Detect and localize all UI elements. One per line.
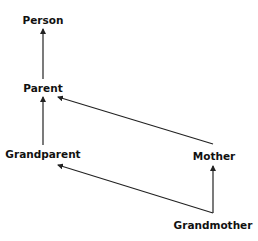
diagram-canvas: Person Parent Grandparent Mother Grandmo… <box>0 0 258 241</box>
node-mother: Mother <box>193 150 235 162</box>
node-person: Person <box>23 14 64 26</box>
node-parent: Parent <box>23 82 62 94</box>
edge-grandmother-to-grandparent <box>58 165 213 213</box>
edges-layer <box>0 0 258 241</box>
edge-mother-to-parent <box>58 97 213 144</box>
node-grandmother: Grandmother <box>174 219 253 231</box>
node-grandparent: Grandparent <box>5 148 80 160</box>
